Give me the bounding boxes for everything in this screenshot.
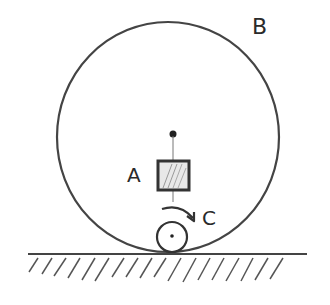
small-wheel-center-dot <box>170 234 174 238</box>
block-a <box>158 161 189 190</box>
diagram-svg <box>0 0 330 305</box>
diagram-canvas: B A C <box>0 0 330 305</box>
big-wheel-b <box>57 22 279 252</box>
label-b: B <box>252 16 267 38</box>
label-c: C <box>202 208 216 228</box>
label-a: A <box>127 165 141 185</box>
ground-hatching <box>29 258 283 282</box>
rotation-arrow-icon <box>162 207 194 221</box>
